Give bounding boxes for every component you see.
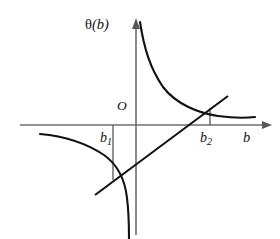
b2-label-subscript: 2 [207, 136, 212, 147]
b2-label-base: b [200, 130, 207, 145]
y-axis-label-arg: (b) [92, 16, 109, 32]
x-axis-arrowhead [262, 121, 272, 129]
b2-label: b2 [200, 131, 212, 147]
origin-label: O [117, 99, 127, 113]
theta-glyph: θ [85, 16, 92, 32]
y-axis-label: θ(b) [85, 17, 109, 32]
hyperbola-branch-lower-left-curve [40, 134, 129, 239]
hyperbola-figure: θ(b) O b1 b2 b [0, 0, 280, 239]
x-axis-label: b [243, 130, 250, 145]
y-axis-arrowhead [132, 18, 140, 29]
droplines-group [113, 108, 210, 180]
b1-label-subscript: 1 [107, 136, 112, 147]
plot-canvas [0, 0, 280, 239]
hyperbola-branch-upper-right-curve [140, 22, 255, 118]
b1-label-base: b [100, 130, 107, 145]
b1-label: b1 [100, 131, 112, 147]
